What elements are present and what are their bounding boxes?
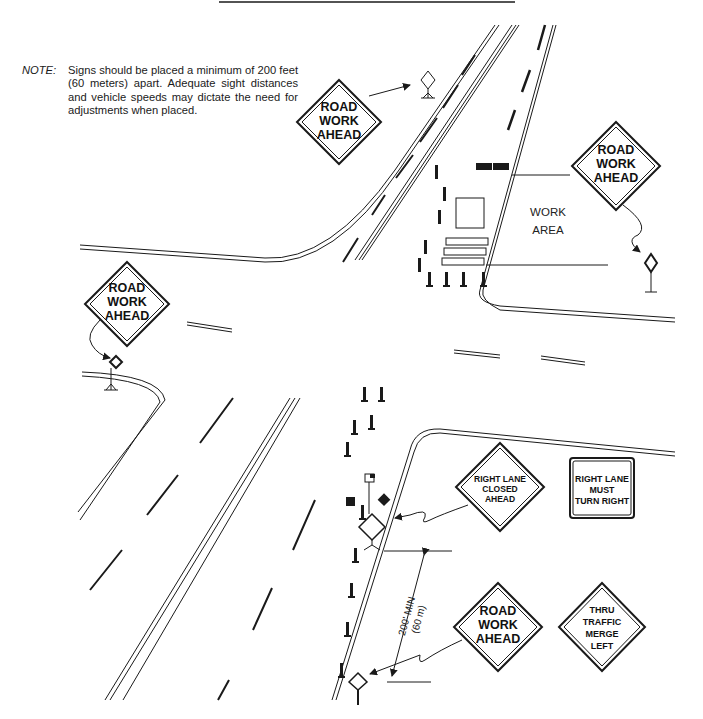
svg-text:CLOSED: CLOSED [482,484,517,494]
svg-text:AHEAD: AHEAD [594,171,638,185]
note-text: Signs should be placed a minimum of 200 … [68,64,298,117]
svg-text:MERGE: MERGE [585,629,618,639]
svg-text:AHEAD: AHEAD [485,494,515,504]
svg-text:TURN RIGHT: TURN RIGHT [575,496,630,506]
svg-text:WORK: WORK [319,114,359,128]
sign-road-work-ahead-right: ROAD WORK AHEAD [572,122,660,210]
svg-text:WORK: WORK [596,157,636,171]
work-area-label: WORK [530,206,566,218]
dimension-label: 200' MIN (60 m) [396,595,428,639]
svg-text:TRAFFIC: TRAFFIC [583,617,622,627]
svg-text:RIGHT LANE: RIGHT LANE [575,474,629,484]
svg-text:THRU: THRU [590,605,615,615]
svg-text:WORK: WORK [478,618,518,632]
svg-text:ROAD: ROAD [598,143,635,157]
road-edge [80,25,495,258]
svg-text:MUST: MUST [590,485,616,495]
svg-text:LEFT: LEFT [591,641,614,651]
posted-sign-icon [421,71,435,89]
sign-right-lane-closed-ahead: RIGHT LANE CLOSED AHEAD [456,443,544,531]
work-area-label-2: AREA [532,224,564,236]
sign-road-work-ahead-left: ROAD WORK AHEAD [85,262,169,346]
sign-road-work-ahead-bottom: ROAD WORK AHEAD [454,583,542,671]
svg-text:RIGHT LANE: RIGHT LANE [474,474,526,484]
sign-right-lane-must-turn-right: RIGHT LANE MUST TURN RIGHT [570,458,634,518]
svg-text:AHEAD: AHEAD [476,632,520,646]
sign-thru-traffic-merge-left: THRU TRAFFIC MERGE LEFT [559,583,645,671]
svg-text:ROAD: ROAD [109,281,146,295]
svg-text:AHEAD: AHEAD [105,309,149,323]
svg-text:WORK: WORK [107,295,147,309]
svg-text:ROAD: ROAD [480,604,517,618]
svg-text:ROAD: ROAD [321,100,358,114]
note-label: NOTE: [22,64,56,77]
svg-text:AHEAD: AHEAD [317,128,361,142]
sign-road-work-ahead-top: ROAD WORK AHEAD [297,80,381,164]
